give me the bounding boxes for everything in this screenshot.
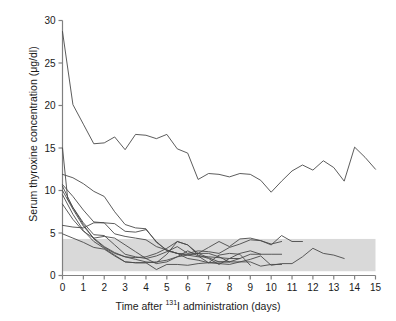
y-tick-label-20: 20	[44, 100, 56, 111]
x-tick-label-13: 13	[328, 282, 340, 293]
x-tick-label-9: 9	[248, 282, 254, 293]
x-tick-label-14: 14	[349, 282, 361, 293]
x-tick-label-2: 2	[101, 282, 107, 293]
y-tick-label-0: 0	[50, 270, 56, 281]
x-tick-label-0: 0	[60, 282, 66, 293]
chart-canvas: 0510152025300123456789101112131415	[0, 0, 396, 321]
x-tick-label-5: 5	[164, 282, 170, 293]
series-line-cat-1	[63, 32, 376, 193]
x-tick-label-10: 10	[266, 282, 278, 293]
x-tick-label-11: 11	[287, 282, 298, 293]
x-tick-label-7: 7	[206, 282, 212, 293]
x-tick-label-3: 3	[122, 282, 128, 293]
x-axis-label: Time after 131I administration (days)	[0, 299, 396, 312]
x-axis-label-superscript: 131	[165, 299, 177, 306]
y-tick-label-25: 25	[44, 58, 56, 69]
x-tick-label-8: 8	[227, 282, 233, 293]
figure-thyroxine-timecourse: 0510152025300123456789101112131415 Serum…	[0, 0, 396, 321]
x-tick-label-4: 4	[143, 282, 149, 293]
x-tick-label-12: 12	[307, 282, 319, 293]
y-tick-label-30: 30	[44, 15, 56, 26]
y-tick-label-15: 15	[44, 143, 56, 154]
x-axis-label-pre: Time after	[116, 300, 166, 312]
y-tick-label-10: 10	[44, 185, 56, 196]
x-axis-label-post: I administration (days)	[177, 300, 280, 312]
x-tick-label-1: 1	[81, 282, 87, 293]
y-axis-label: Serum thyroxine concentration (μg/dl)	[27, 9, 39, 259]
y-tick-label-5: 5	[50, 228, 56, 239]
x-tick-label-15: 15	[370, 282, 382, 293]
x-tick-label-6: 6	[185, 282, 191, 293]
